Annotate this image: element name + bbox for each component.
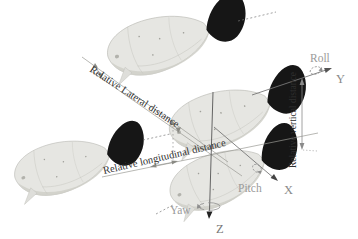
arrowhead [207, 212, 213, 220]
vertical-distance-line [300, 78, 317, 151]
roll-label: Roll [310, 52, 330, 64]
yaw-label: Yaw [170, 204, 191, 216]
left-fish-axis-extension [143, 134, 170, 140]
arrowhead [171, 160, 178, 164]
arrowhead [324, 68, 332, 73]
x-axis-label: X [284, 183, 293, 197]
figure-canvas: Relative Lateral distance Relative longi… [0, 0, 358, 239]
vertical-distance-label: Relative vertical distance [288, 72, 298, 168]
arrowhead [300, 143, 305, 150]
pitch-label: Pitch [238, 182, 262, 194]
fish-formation-diagram: Relative Lateral distance Relative longi… [0, 0, 358, 239]
z-axis-label: Z [216, 222, 224, 236]
robot-fish-top [100, 0, 256, 86]
y-axis-label: Y [336, 72, 345, 86]
arrowhead [271, 174, 278, 181]
arrowhead [319, 67, 323, 71]
